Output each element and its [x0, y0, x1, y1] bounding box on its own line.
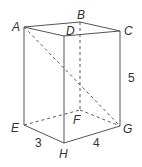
edge-EH: [24, 125, 64, 143]
label-A: A: [11, 20, 20, 34]
dimension-EH: 3: [35, 136, 42, 150]
edge-AD: [24, 27, 64, 36]
diagonal-AG: [24, 27, 120, 126]
label-F: F: [73, 113, 81, 127]
vertex-labels: A B C D E F G H: [11, 8, 133, 161]
edge-EF: [24, 110, 80, 125]
visible-edges: [24, 22, 120, 143]
edge-HG: [64, 126, 120, 143]
cuboid-diagram: A B C D E F G H 3 4 5: [0, 0, 142, 167]
label-C: C: [124, 24, 133, 38]
edge-FG: [80, 110, 120, 126]
dimension-HG: 4: [93, 136, 100, 150]
dimension-CG: 5: [128, 71, 135, 85]
label-D: D: [66, 24, 75, 38]
label-E: E: [11, 121, 20, 135]
label-G: G: [123, 122, 132, 136]
edge-BC: [80, 22, 120, 31]
label-B: B: [77, 8, 85, 22]
label-H: H: [59, 147, 68, 161]
